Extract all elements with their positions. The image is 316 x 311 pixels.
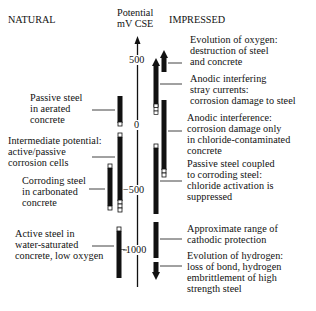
label-line: stray currents: [190,84,249,95]
label-line: suppressed [187,191,232,202]
label-line: Evolution of hydrogen: [187,250,283,261]
tick-label-500: 500 [129,54,144,65]
label-line: destruction of steel [190,45,269,56]
label-line: in aerated [30,103,70,114]
label-line: corrosion damage to steel [190,95,296,106]
bar-oxygen-evolution [160,50,182,72]
label-line: concrete [30,114,65,125]
label-line: and concrete [190,56,242,67]
label-line: strength steel [187,283,242,294]
label-line: active/passive [8,146,66,157]
label-line: corrosion damage only [187,123,281,134]
label-line: chloride activation is [187,180,274,191]
label-line: loss of bond, hydrogen [187,261,281,272]
label-line: concrete [187,145,222,156]
label-line: Approximate range of [187,223,278,234]
bar-passive-steel [92,96,123,126]
bar-hydrogen-evolution [152,262,182,280]
label-line: Anodic interfering [190,73,266,84]
tick-label-minus-1000: −1000 [120,244,146,255]
label-line: concrete, low oxygen [15,250,103,261]
label-line: water-saturated [15,239,78,250]
label-line: corrosion cells [8,157,68,168]
label-line: concrete [22,197,57,208]
label-line: Passive steel [30,92,82,103]
label-line: embrittlement of high [187,272,277,283]
bar-anodic-interference [162,100,183,177]
bar-passive-coupled [154,144,183,214]
bar-corroding-carbonated [89,164,113,210]
label-line: Corroding steel [22,175,86,186]
bar-cathodic-protection [154,222,183,258]
label-line: Intermediate potential: [8,135,102,146]
tick-label-minus-500: −500 [123,184,144,195]
label-line: Evolution of oxygen: [190,34,278,45]
label-line: Active steel in [15,228,75,239]
label-line: cathodic protection [187,234,266,245]
label-line: to corroding steel: [187,169,262,180]
bar-anodic-stray-currents [152,58,182,115]
label-line: Anodic interference: [187,112,272,123]
label-line: in chloride-contaminated [187,134,290,145]
label-line: in carbonated [22,186,78,197]
tick-label-0: 0 [134,119,139,130]
label-line: Passive steel coupled [187,158,275,169]
